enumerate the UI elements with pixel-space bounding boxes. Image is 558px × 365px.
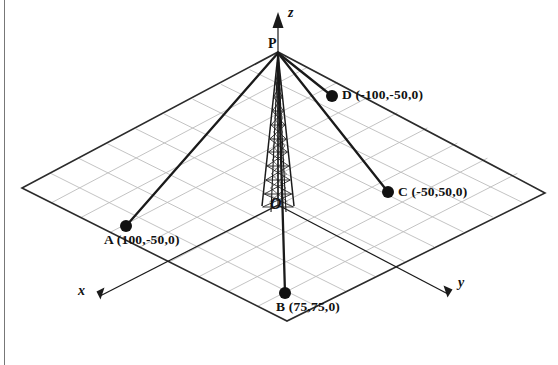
axis-label-x: x	[78, 284, 85, 298]
point-marker-A	[120, 220, 132, 232]
point-marker-C	[382, 186, 394, 198]
guy-wire-PC	[278, 53, 388, 192]
anchor-points	[120, 90, 394, 299]
point-marker-D	[326, 90, 338, 102]
figure-container: x y z P O A (100,-50,0) B (75,75,0) C (-…	[0, 0, 558, 365]
point-label-c: C (-50,50,0)	[398, 185, 468, 199]
point-marker-B	[279, 287, 291, 299]
point-label-d: D (-100,-50,0)	[342, 88, 423, 102]
axis-label-z: z	[288, 6, 293, 20]
point-label-a: A (100,-50,0)	[104, 233, 180, 247]
origin-label-o: O	[270, 196, 282, 212]
guy-wire-PA	[126, 53, 278, 226]
axis-label-y: y	[458, 276, 464, 290]
apex-label-p: P	[268, 37, 277, 51]
point-label-b: B (75,75,0)	[276, 300, 340, 314]
guy-wire-PD	[278, 53, 332, 96]
